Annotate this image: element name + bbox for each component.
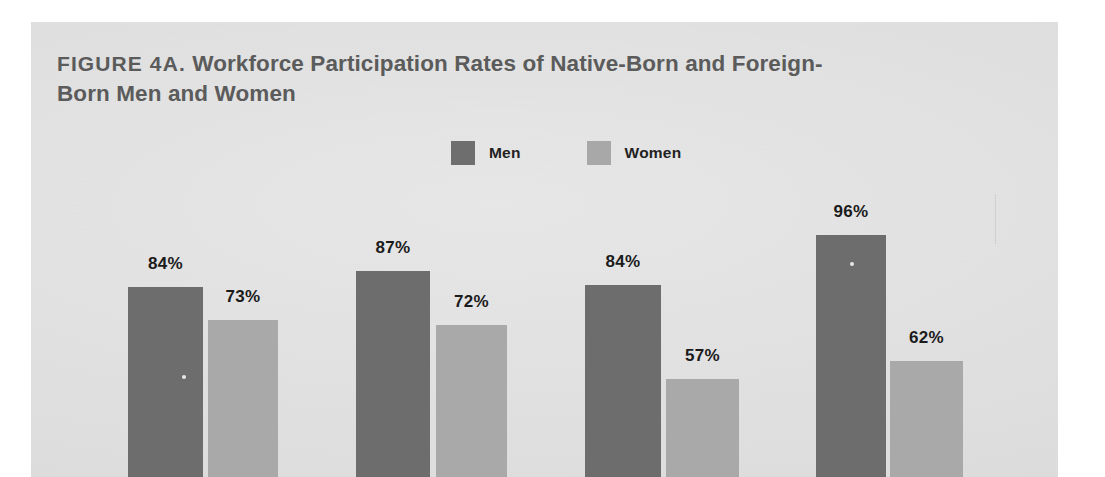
bar-value-label: 87% (356, 238, 430, 258)
bar-rect (436, 325, 507, 477)
bar-women-group-1: 73% (208, 320, 278, 477)
bar-men-group-3: 84% (585, 285, 661, 477)
bar-men-group-4: 96% (816, 235, 886, 477)
bar-value-label: 73% (208, 287, 278, 307)
bar-value-label: 57% (666, 346, 739, 366)
bar-rect (208, 320, 278, 477)
chart-plot-area: 84%73%87%72%84%57%96%62% (31, 22, 1058, 477)
bar-rect (890, 361, 963, 477)
bar-rect (585, 285, 661, 477)
bar-rect (356, 271, 430, 477)
bar-value-label: 84% (128, 254, 203, 274)
bar-men-group-2: 87% (356, 271, 430, 477)
bar-value-label: 96% (816, 202, 886, 222)
bar-value-label: 72% (436, 292, 507, 312)
bar-value-label: 62% (890, 328, 963, 348)
bar-men-group-1: 84% (128, 287, 203, 477)
bar-women-group-3: 57% (666, 379, 739, 477)
figure-page: FIGURE 4A. Workforce Participation Rates… (0, 0, 1105, 477)
bar-value-label: 84% (585, 252, 661, 272)
bar-women-group-2: 72% (436, 325, 507, 477)
bar-women-group-4: 62% (890, 361, 963, 477)
figure-panel: FIGURE 4A. Workforce Participation Rates… (31, 22, 1058, 477)
bar-rect (666, 379, 739, 477)
bar-rect (128, 287, 203, 477)
bar-rect (816, 235, 886, 477)
